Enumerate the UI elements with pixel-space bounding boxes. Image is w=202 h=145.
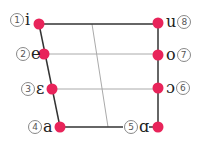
vowel-symbol: i <box>25 12 30 28</box>
vowel-label-6: ɔ 6 <box>166 80 191 96</box>
vowel-symbol: o <box>166 47 176 63</box>
vowel-label-5: 5 ɑ <box>123 119 149 135</box>
vowel-dot-u <box>153 18 164 29</box>
central-line <box>92 24 108 127</box>
vowel-dot-i <box>34 19 45 30</box>
vowel-label-2: 2 e <box>15 46 40 62</box>
vowel-label-4: 4 a <box>27 119 53 135</box>
vowel-dot-o <box>153 50 164 61</box>
vowel-number: 8 <box>177 15 191 29</box>
vowel-dot-open-o <box>153 83 164 94</box>
vowel-symbol: u <box>166 14 176 30</box>
vowel-number: 2 <box>16 47 30 61</box>
vowel-symbol: ɑ <box>139 119 149 135</box>
vowel-label-8: u 8 <box>166 14 192 30</box>
vowel-number: 5 <box>124 120 138 134</box>
vowel-symbol: ɔ <box>166 80 175 96</box>
front-edge <box>39 24 60 127</box>
vowel-number: 1 <box>10 13 24 27</box>
vowel-symbol: ɛ <box>36 81 44 97</box>
vowel-label-3: 3 ɛ <box>20 81 44 97</box>
vowel-symbol: a <box>43 119 53 135</box>
vowel-dot-epsilon <box>47 84 58 95</box>
vowel-dot-a <box>55 122 66 133</box>
vowel-symbol: e <box>31 46 40 62</box>
vowel-number: 7 <box>177 48 191 62</box>
vowel-number: 6 <box>176 81 190 95</box>
vowel-number: 3 <box>21 82 35 96</box>
vowel-number: 4 <box>28 120 42 134</box>
vowel-dot-script-a <box>153 122 164 133</box>
vowel-label-7: o 7 <box>166 47 192 63</box>
vowel-label-1: 1 i <box>9 12 30 28</box>
